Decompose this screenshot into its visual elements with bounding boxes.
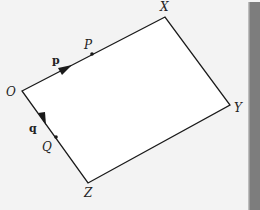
diagram-svg: O X Y Z P Q p q (0, 0, 260, 210)
parallelogram-oxyz (22, 17, 230, 183)
label-q-point: Q (42, 140, 52, 154)
label-p-point: P (83, 38, 93, 52)
side-bar-edge (248, 2, 250, 210)
diagram-stage: O X Y Z P Q p q (0, 0, 260, 210)
arrow-q-icon (38, 112, 46, 125)
label-o: O (6, 85, 16, 99)
label-z: Z (83, 186, 93, 200)
label-vector-p: p (52, 54, 60, 67)
point-p-dot (90, 52, 94, 56)
point-q-dot (54, 135, 58, 139)
label-x: X (159, 0, 169, 14)
label-y: Y (234, 101, 243, 115)
side-bar (249, 2, 260, 210)
label-vector-q: q (29, 122, 37, 135)
